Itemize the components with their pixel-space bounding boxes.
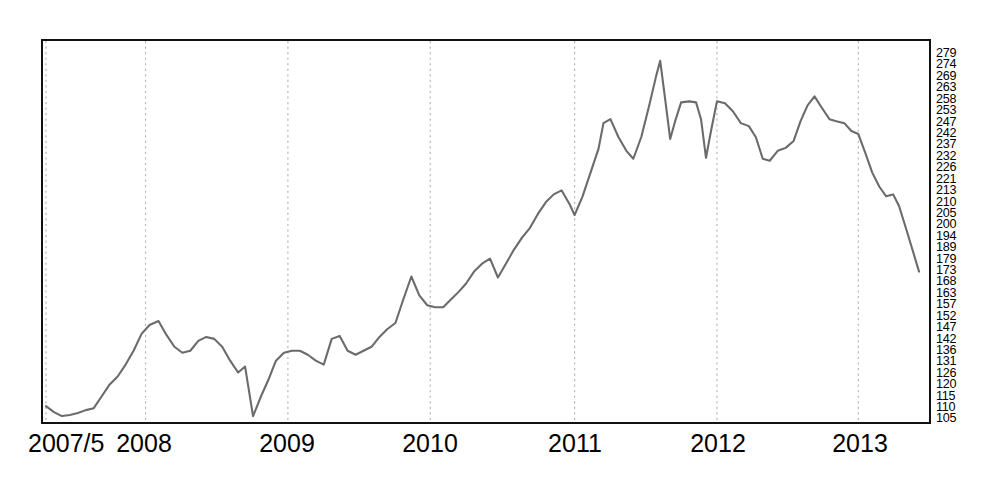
- x-tick-label-2008: 2008: [116, 428, 172, 458]
- chart-root: 2792742692632582532472422372322262212132…: [0, 0, 988, 493]
- y-axis-tick-labels: 2792742692632582532472422372322262212132…: [934, 39, 986, 429]
- series-layer: [43, 41, 929, 422]
- x-tick-label-2009: 2009: [259, 428, 315, 458]
- series-line-index: [46, 61, 919, 416]
- x-tick-label-2013: 2013: [832, 428, 888, 458]
- x-tick-label-2010: 2010: [402, 428, 458, 458]
- x-tick-label-2012: 2012: [690, 428, 746, 458]
- x-axis-tick-labels: 2007/5200820092010201120122013: [0, 428, 988, 468]
- plot-area: [41, 39, 931, 424]
- x-tick-label-2007-5: 2007/5: [28, 428, 104, 458]
- y-tick-label-105: 105: [936, 412, 956, 425]
- x-tick-label-2011: 2011: [548, 428, 602, 458]
